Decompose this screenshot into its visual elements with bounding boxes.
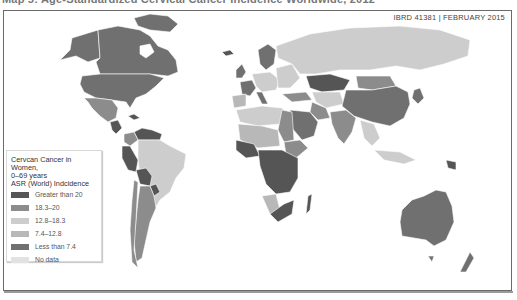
region-venezuela-guianas <box>134 128 162 140</box>
region-madagascar <box>306 194 312 214</box>
region-italy <box>256 92 268 104</box>
region-turkey <box>282 92 312 102</box>
region-iberia <box>232 94 246 108</box>
region-korea-japan <box>412 88 424 104</box>
region-india <box>330 110 356 144</box>
legend-item-less-than-7-4: Less than 7.4 <box>11 240 97 253</box>
region-scandinavia <box>258 44 276 70</box>
region-australia <box>400 190 454 246</box>
region-kazakhstan <box>306 74 350 92</box>
region-indonesia <box>374 150 416 164</box>
legend-swatch <box>11 205 29 211</box>
legend-item-12-8-to-18-3: 12.8–18.3 <box>11 214 97 227</box>
legend-label: Greater than 20 <box>35 191 83 198</box>
legend-label: No data <box>35 256 59 263</box>
legend-label: 12.8–18.3 <box>35 217 65 224</box>
legend-label: 18.3–20 <box>35 204 60 211</box>
region-central-africa <box>258 150 298 194</box>
region-russia <box>276 26 470 74</box>
legend-title-line3: ASR (World) Indcidence <box>11 180 97 188</box>
legend-swatch <box>11 244 29 250</box>
legend-swatch <box>11 257 29 263</box>
region-new-zealand <box>460 252 474 272</box>
legend-title-line1: Cervcan Cancer in Women, <box>11 156 97 172</box>
region-central-america <box>110 120 122 134</box>
legend-item-greater-than-20: Greater than 20 <box>11 188 97 201</box>
region-southeast-asia <box>360 120 380 146</box>
region-alaska <box>60 30 100 62</box>
legend-swatch <box>11 218 29 224</box>
region-caribbean <box>128 114 140 120</box>
region-peru <box>122 146 138 172</box>
legend-label: 7.4–12.8 <box>35 230 61 237</box>
region-uk <box>236 64 246 78</box>
region-france <box>240 80 256 96</box>
legend-item-7-4-to-12-8: 7.4–12.8 <box>11 227 97 240</box>
region-iceland <box>222 50 234 56</box>
region-tasmania <box>428 256 434 262</box>
legend-swatch <box>11 231 29 237</box>
region-central-europe <box>252 72 280 92</box>
region-arctic-islands <box>134 14 178 32</box>
region-canada <box>96 26 178 76</box>
legend-label: Less than 7.4 <box>35 243 76 250</box>
legend-swatch <box>11 192 29 198</box>
region-mexico <box>84 98 118 122</box>
region-papua-new-guinea <box>446 160 456 170</box>
legend-item-18-3-to-20: 18.3–20 <box>11 201 97 214</box>
map-legend: Cervcan Cancer in Women, 0–69 years ASR … <box>6 150 102 262</box>
legend-item-no-data: No data <box>11 253 97 266</box>
